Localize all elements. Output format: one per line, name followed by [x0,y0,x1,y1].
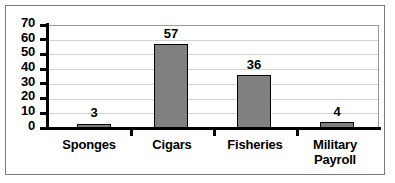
y-axis-label-20: 20 [7,91,35,101]
y-tick-50 [40,53,47,56]
bar-value-sponges: 3 [69,106,119,119]
x-tick-3 [296,130,299,136]
bar-value-fisheries: 36 [229,58,279,71]
gridline-40 [48,69,379,70]
gridline-20 [48,99,379,100]
y-axis-label-10: 10 [7,106,35,116]
y-tick-10 [40,112,47,115]
y-axis-label-30: 30 [7,77,35,87]
y-tick-70 [40,24,47,27]
y-axis-label-0: 0 [7,121,35,131]
bar-fisheries[interactable] [237,75,271,128]
x-axis-label-military-payroll-line1: Military [285,137,385,152]
y-axis-label-70: 70 [7,18,35,28]
bar-cigars[interactable] [154,44,188,128]
y-axis-label-40: 40 [7,62,35,72]
gridline-50 [48,54,379,55]
gridline-70 [48,25,379,26]
y-axis-label-60: 60 [7,33,35,43]
y-axis-label-50: 50 [7,47,35,57]
gridline-60 [48,40,379,41]
x-axis-label-military-payroll-line2: Payroll [285,152,385,167]
plot-right-border [378,25,379,128]
bar-value-cigars: 57 [146,27,196,40]
y-tick-30 [40,82,47,85]
y-tick-20 [40,97,47,100]
x-tick-1 [130,130,133,136]
plot-area: 3 57 36 4 [48,25,379,128]
bar-value-military-payroll: 4 [312,105,362,118]
x-tick-2 [213,130,216,136]
y-tick-40 [40,68,47,71]
y-tick-0 [40,127,47,130]
chart-outer-frame: 3 57 36 4 70 60 50 40 30 20 10 0 Sponges… [5,5,385,175]
y-tick-60 [40,38,47,41]
gridline-30 [48,84,379,85]
x-axis-label-military-payroll: Military Payroll [285,137,385,167]
